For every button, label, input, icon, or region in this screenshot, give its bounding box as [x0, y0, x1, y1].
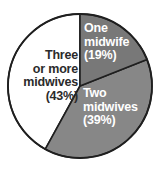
pie-chart-svg — [0, 0, 161, 173]
pie-slices — [8, 14, 152, 158]
pie-chart: One midwife (19%) Two midwives (39%) Thr… — [0, 0, 161, 173]
